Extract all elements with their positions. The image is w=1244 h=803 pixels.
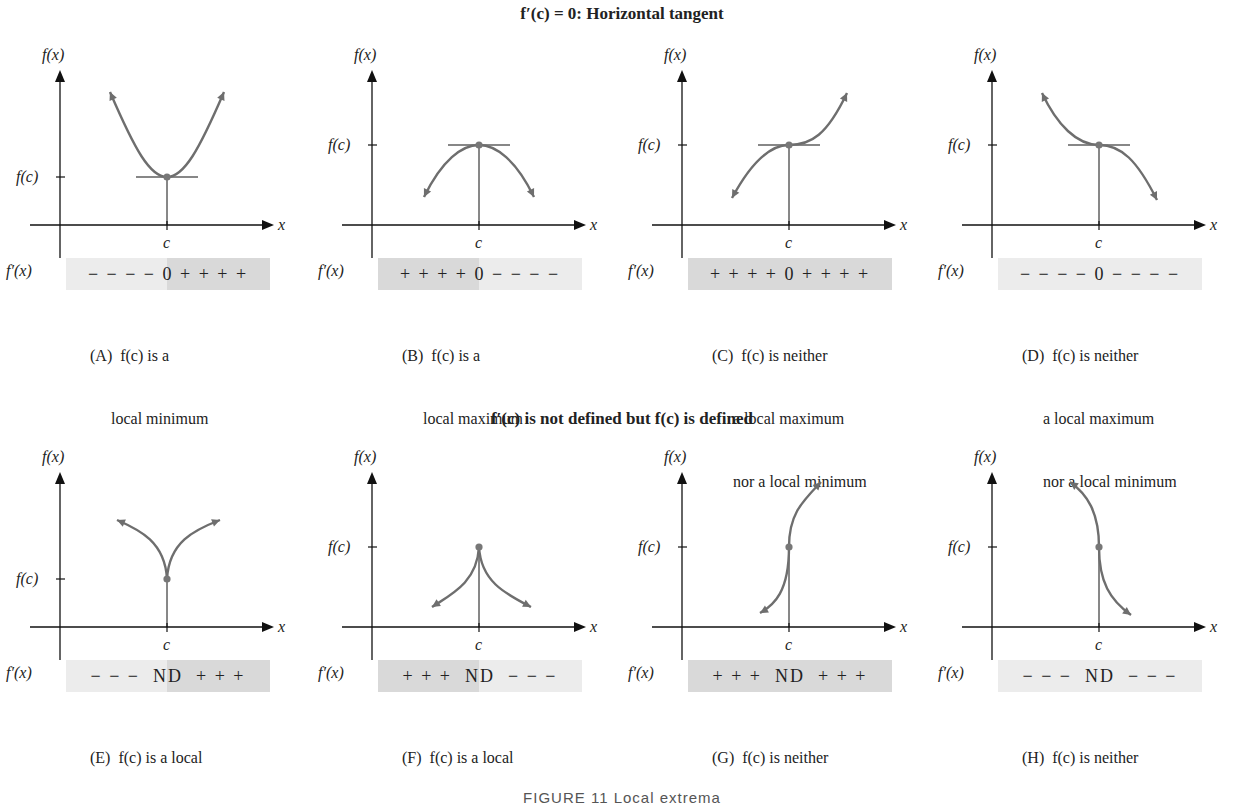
caption-line-1: (F) f(c) is a local (402, 747, 514, 768)
x-axis-arrow-icon (574, 220, 586, 230)
y-axis-arrow-icon (367, 70, 377, 82)
caption-line-1: (G) f(c) is neither (712, 747, 867, 768)
critical-point (475, 141, 482, 148)
caption-line-2: a local maximum (712, 408, 867, 429)
sign-chart: − − − ND − − − (998, 660, 1202, 692)
function-curve (432, 547, 531, 607)
sign-chart: − − − − 0 + + + + (66, 258, 270, 290)
critical-point (163, 173, 170, 180)
fc-label: f(c) (948, 136, 970, 154)
sign-chart: + + + + 0 + + + + (688, 258, 892, 290)
critical-point (785, 543, 792, 550)
graph: f(x) x f(c) c (0, 432, 312, 672)
y-axis-arrow-icon (55, 472, 65, 484)
fprime-label: f′(x) (938, 262, 964, 280)
x-axis-label: x (589, 216, 597, 233)
fprime-label: f′(x) (938, 664, 964, 682)
y-axis-label: f(x) (42, 46, 64, 64)
x-axis-label: x (899, 216, 907, 233)
sign-chart-values: − − − ND − − − (998, 660, 1202, 692)
fc-label: f(c) (948, 538, 970, 556)
panel-h: f(x) x f(c) c f′(x) − − − ND − − − (H) f… (932, 432, 1244, 792)
x-axis-arrow-icon (884, 220, 896, 230)
x-axis-arrow-icon (1194, 622, 1206, 632)
x-axis-label: x (1209, 618, 1217, 635)
sign-chart: + + + ND + + + (688, 660, 892, 692)
graph: f(x) x f(c) c (312, 432, 624, 672)
section-title-horizontal-tangent: f′(c) = 0: Horizontal tangent (0, 4, 1244, 24)
x-axis-arrow-icon (1194, 220, 1206, 230)
y-axis-label: f(x) (354, 448, 376, 466)
caption-line-1: (E) f(c) is a local (90, 747, 202, 768)
c-label: c (785, 636, 792, 653)
sign-chart-values: − − − ND + + + (66, 660, 270, 692)
panel-c: f(x) x f(c) c f′(x) + + + + 0 + + + + (C… (622, 30, 934, 390)
fc-label: f(c) (638, 538, 660, 556)
y-axis-label: f(x) (42, 448, 64, 466)
x-axis-arrow-icon (262, 622, 274, 632)
x-axis-label: x (277, 618, 285, 635)
graph: f(x) x f(c) c (312, 30, 624, 270)
y-axis-arrow-icon (677, 70, 687, 82)
critical-point (785, 141, 792, 148)
fc-label: f(c) (638, 136, 660, 154)
c-label: c (163, 234, 170, 251)
y-axis-arrow-icon (367, 472, 377, 484)
graph: f(x) x f(c) c (932, 30, 1244, 270)
c-label: c (1095, 234, 1102, 251)
c-label: c (163, 636, 170, 653)
critical-point (475, 543, 482, 550)
critical-point (1095, 543, 1102, 550)
y-axis-label: f(x) (974, 448, 996, 466)
c-label: c (475, 234, 482, 251)
graph: f(x) x f(c) c (932, 432, 1244, 672)
caption-line-1: (D) f(c) is neither (1022, 345, 1177, 366)
c-label: c (785, 234, 792, 251)
sign-chart-values: + + + + 0 + + + + (688, 258, 892, 290)
sign-chart-values: + + + + 0 − − − − (378, 258, 582, 290)
sign-chart: + + + + 0 − − − − (378, 258, 582, 290)
fc-label: f(c) (328, 136, 350, 154)
y-axis-arrow-icon (987, 472, 997, 484)
sign-chart: − − − − 0 − − − − (998, 258, 1202, 290)
panel-b: f(x) x f(c) c f′(x) + + + + 0 − − − − (B… (312, 30, 624, 390)
panel-d: f(x) x f(c) c f′(x) − − − − 0 − − − − (D… (932, 30, 1244, 390)
fprime-label: f′(x) (6, 262, 32, 280)
caption-line-1: (H) f(c) is neither (1022, 747, 1177, 768)
c-label: c (475, 636, 482, 653)
x-axis-arrow-icon (574, 622, 586, 632)
function-curve (110, 92, 224, 177)
sign-chart: − − − ND + + + (66, 660, 270, 692)
y-axis-label: f(x) (664, 448, 686, 466)
x-axis-label: x (277, 216, 285, 233)
x-axis-label: x (589, 618, 597, 635)
caption-line-1: (C) f(c) is neither (712, 345, 867, 366)
function-curve (117, 520, 220, 579)
fprime-label: f′(x) (628, 664, 654, 682)
y-axis-label: f(x) (664, 46, 686, 64)
graph: f(x) x f(c) c (622, 30, 934, 270)
critical-point (1095, 141, 1102, 148)
y-axis-label: f(x) (974, 46, 996, 64)
panel-e: f(x) x f(c) c f′(x) − − − ND + + + (E) f… (0, 432, 312, 792)
caption-line-2: local minimum (90, 408, 208, 429)
critical-point (163, 575, 170, 582)
sign-chart: + + + ND − − − (378, 660, 582, 692)
fc-label: f(c) (16, 168, 38, 186)
x-axis-label: x (1209, 216, 1217, 233)
caption-line-1: (B) f(c) is a (402, 345, 523, 366)
fc-label: f(c) (328, 538, 350, 556)
sign-chart-values: + + + ND + + + (688, 660, 892, 692)
x-axis-label: x (899, 618, 907, 635)
graph: f(x) x f(c) c (622, 432, 934, 672)
caption-line-2: a local maximum (1022, 408, 1177, 429)
x-axis-arrow-icon (884, 622, 896, 632)
figure-caption: FIGURE 11 Local extrema (0, 789, 1244, 803)
sign-chart-values: + + + ND − − − (378, 660, 582, 692)
fprime-label: f′(x) (628, 262, 654, 280)
graph: f(x) x f(c) c (0, 30, 312, 270)
caption-line-1: (A) f(c) is a (90, 345, 208, 366)
sign-chart-values: − − − − 0 − − − − (998, 258, 1202, 290)
c-label: c (1095, 636, 1102, 653)
panel-g: f(x) x f(c) c f′(x) + + + ND + + + (G) f… (622, 432, 934, 792)
